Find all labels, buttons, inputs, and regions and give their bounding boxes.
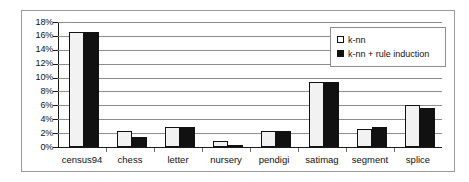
bar bbox=[213, 141, 228, 147]
y-axis-tick-mark bbox=[53, 78, 58, 79]
bar-group bbox=[213, 22, 243, 147]
x-axis-tick-label: segment bbox=[346, 154, 394, 166]
x-axis-tick-label: census94 bbox=[58, 154, 106, 166]
bar-group bbox=[69, 22, 99, 147]
bar-group bbox=[117, 22, 147, 147]
x-axis-tick-mark bbox=[394, 148, 395, 152]
bar bbox=[357, 129, 372, 147]
legend-label: k-nn bbox=[348, 35, 366, 45]
y-axis-tick-label: 8% bbox=[40, 87, 53, 96]
x-axis-tick-mark bbox=[202, 148, 203, 152]
bar bbox=[405, 105, 420, 147]
x-axis-tick-label: pendigi bbox=[250, 154, 298, 166]
chart-legend: k-nn k-nn + rule induction bbox=[330, 27, 446, 67]
bar bbox=[276, 131, 291, 147]
y-axis: 0%2%4%6%8%10%12%14%16%18% bbox=[22, 11, 56, 173]
y-axis-tick-label: 14% bbox=[36, 45, 53, 54]
bar bbox=[165, 127, 180, 147]
y-axis-tick-mark bbox=[53, 133, 58, 134]
y-axis-tick-mark bbox=[53, 50, 58, 51]
y-axis-tick-mark bbox=[53, 64, 58, 65]
bar bbox=[180, 127, 195, 147]
bar bbox=[132, 137, 147, 147]
legend-label: k-nn + rule induction bbox=[348, 49, 429, 59]
x-axis-tick-mark bbox=[346, 148, 347, 152]
x-axis-tick-mark bbox=[106, 148, 107, 152]
y-axis-tick-label: 4% bbox=[40, 115, 53, 124]
x-axis: census94chessletternurserypendigisatimag… bbox=[58, 154, 442, 170]
y-axis-tick-label: 6% bbox=[40, 101, 53, 110]
y-axis-tick-mark bbox=[53, 105, 58, 106]
x-axis-tick-label: satimag bbox=[298, 154, 346, 166]
bar bbox=[117, 131, 132, 147]
y-axis-tick-label: 10% bbox=[36, 73, 53, 82]
bar bbox=[324, 82, 339, 147]
bar bbox=[420, 108, 435, 147]
y-axis-tick-label: 2% bbox=[40, 129, 53, 138]
x-axis-tick-label: splice bbox=[394, 154, 442, 166]
bar-chart-figure: 0%2%4%6%8%10%12%14%16%18% census94chessl… bbox=[21, 10, 455, 172]
x-axis-tick-label: nursery bbox=[202, 154, 250, 166]
legend-entry-knn-rule-induction: k-nn + rule induction bbox=[337, 47, 439, 60]
legend-swatch-filled-square-icon bbox=[337, 50, 344, 57]
x-axis-tick-label: letter bbox=[154, 154, 202, 166]
bar bbox=[309, 82, 324, 147]
y-axis-tick-label: 18% bbox=[36, 18, 53, 27]
y-axis-tick-mark bbox=[53, 91, 58, 92]
bar bbox=[228, 145, 243, 147]
y-axis-tick-label: 16% bbox=[36, 31, 53, 40]
y-axis-tick-label: 12% bbox=[36, 59, 53, 68]
y-axis-tick-mark bbox=[53, 147, 58, 148]
y-axis-tick-mark bbox=[53, 36, 58, 37]
x-axis-tick-label: chess bbox=[106, 154, 154, 166]
bar-group bbox=[165, 22, 195, 147]
x-axis-tick-mark bbox=[298, 148, 299, 152]
x-axis-tick-mark bbox=[250, 148, 251, 152]
y-axis-tick-mark bbox=[53, 22, 58, 23]
y-axis-tick-mark bbox=[53, 119, 58, 120]
legend-entry-knn: k-nn bbox=[337, 33, 439, 46]
bar bbox=[261, 131, 276, 147]
bar bbox=[69, 32, 84, 147]
x-axis-tick-mark bbox=[154, 148, 155, 152]
bar bbox=[372, 127, 387, 147]
bar bbox=[84, 32, 99, 147]
y-axis-tick-label: 0% bbox=[40, 143, 53, 152]
bar-group bbox=[261, 22, 291, 147]
legend-swatch-hollow-square-icon bbox=[337, 36, 344, 43]
